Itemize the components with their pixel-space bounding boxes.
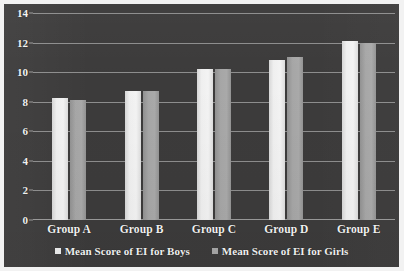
legend-label-girls: Mean Score of EI for Girls: [222, 245, 348, 257]
x-axis-label-group-b: Group B: [120, 223, 164, 235]
y-tick-label-14: 14: [17, 8, 28, 19]
y-tick-label-2: 2: [23, 185, 29, 196]
x-axis-label-group-a: Group A: [47, 223, 91, 235]
square-marker-icon-girls: [212, 248, 218, 254]
bar-girls-group-d: [287, 57, 303, 220]
bar-girls-group-c: [215, 69, 231, 220]
chart-plot-background: 14121086420 Group AGroup BGroup CGroup D…: [4, 4, 399, 267]
bar-group-group-a: [52, 13, 86, 220]
bar-girls-group-a: [70, 100, 86, 220]
bar-boys-group-b: [125, 91, 141, 220]
bar-boys-group-e: [342, 41, 358, 220]
bar-boys-group-d: [269, 60, 285, 220]
bar-boys-group-a: [52, 98, 68, 220]
bar-girls-group-e: [360, 43, 376, 220]
chart-frame: 14121086420 Group AGroup BGroup CGroup D…: [0, 0, 404, 271]
legend-item-girls: Mean Score of EI for Girls: [212, 245, 348, 257]
y-tick-label-6: 6: [23, 126, 29, 137]
x-axis-labels-group: Group AGroup BGroup CGroup DGroup E: [33, 223, 395, 241]
x-axis-label-group-c: Group C: [192, 223, 236, 235]
bar-group-group-b: [125, 13, 159, 220]
y-tick-label-8: 8: [23, 96, 29, 107]
x-axis-label-group-e: Group E: [337, 223, 381, 235]
square-marker-icon-boys: [55, 248, 61, 254]
legend-label-boys: Mean Score of EI for Boys: [65, 245, 190, 257]
bar-group-group-c: [197, 13, 231, 220]
legend-item-boys: Mean Score of EI for Boys: [55, 245, 190, 257]
y-tick-label-0: 0: [23, 215, 29, 226]
plot-area: 14121086420: [33, 13, 395, 220]
y-tick-label-10: 10: [17, 67, 28, 78]
bars-group: [33, 13, 395, 220]
bar-boys-group-c: [197, 69, 213, 220]
bar-group-group-e: [342, 13, 376, 220]
y-tick-label-4: 4: [23, 155, 29, 166]
bar-girls-group-b: [143, 91, 159, 220]
chart-legend: Mean Score of EI for Boys Mean Score of …: [4, 245, 399, 257]
bar-group-group-d: [269, 13, 303, 220]
y-tick-label-12: 12: [17, 37, 28, 48]
x-axis-label-group-d: Group D: [264, 223, 308, 235]
